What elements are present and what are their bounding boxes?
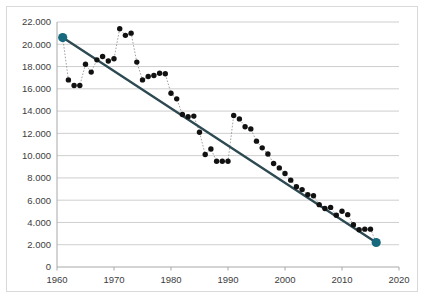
data-point (134, 59, 139, 64)
data-point (299, 187, 304, 192)
data-point (339, 209, 344, 214)
y-tick-label-12000: 12.000 (22, 128, 51, 139)
data-point (271, 161, 276, 166)
trend-endpoint-marker (372, 238, 381, 247)
y-tick-label-2000: 2.000 (27, 239, 51, 250)
data-point (168, 91, 173, 96)
y-tick-label-10000: 10.000 (22, 150, 51, 161)
trend-endpoint-marker (58, 33, 67, 42)
chart-figure: 02.0004.0006.0008.00010.00012.00014.0001… (0, 0, 425, 300)
data-point (140, 77, 145, 82)
y-tick-label-16000: 16.000 (22, 83, 51, 94)
data-point (368, 226, 373, 231)
chart-plot-area: 02.0004.0006.0008.00010.00012.00014.0001… (0, 0, 425, 300)
y-tick-label-18000: 18.000 (22, 61, 51, 72)
data-point (294, 184, 299, 189)
data-point (265, 151, 270, 156)
data-point (254, 138, 259, 143)
data-point (174, 96, 179, 101)
gridlines-group (57, 22, 399, 245)
data-point (231, 113, 236, 118)
x-tick-label-1970: 1970 (103, 274, 124, 285)
y-tick-label-14000: 14.000 (22, 105, 51, 116)
x-tick-label-2000: 2000 (274, 274, 295, 285)
data-point (89, 69, 94, 74)
data-point (242, 124, 247, 129)
data-point (351, 222, 356, 227)
y-tick-label-8000: 8.000 (27, 172, 51, 183)
y-tick-label-6000: 6.000 (27, 195, 51, 206)
data-point (180, 112, 185, 117)
data-point (197, 130, 202, 135)
data-point (94, 57, 99, 62)
data-point (123, 33, 128, 38)
data-point (128, 30, 133, 35)
data-point (345, 212, 350, 217)
data-point (185, 114, 190, 119)
data-point (237, 116, 242, 121)
x-tick-label-1990: 1990 (217, 274, 238, 285)
data-point (220, 159, 225, 164)
data-point (66, 77, 71, 82)
data-point (106, 58, 111, 63)
data-point (71, 83, 76, 88)
data-point (151, 73, 156, 78)
data-point (317, 202, 322, 207)
data-point (356, 227, 361, 232)
data-point (248, 126, 253, 131)
data-point (282, 171, 287, 176)
y-axis-tick-labels: 02.0004.0006.0008.00010.00012.00014.0001… (22, 16, 51, 272)
data-point (117, 26, 122, 31)
x-axis-tick-labels: 1960197019801990200020102020 (46, 274, 409, 285)
data-point (311, 193, 316, 198)
data-point (260, 145, 265, 150)
data-point (77, 83, 82, 88)
data-point (305, 192, 310, 197)
data-point (322, 206, 327, 211)
data-point (362, 226, 367, 231)
data-point (334, 213, 339, 218)
trend-line-group (63, 38, 377, 243)
x-tickmarks-group (57, 267, 399, 271)
data-point (203, 152, 208, 157)
x-tick-label-2010: 2010 (331, 274, 352, 285)
y-tick-label-20000: 20.000 (22, 39, 51, 50)
data-point (83, 62, 88, 67)
data-point (214, 159, 219, 164)
data-point (208, 146, 213, 151)
data-point (100, 54, 105, 59)
x-tick-label-1980: 1980 (160, 274, 181, 285)
data-point (225, 159, 230, 164)
y-tick-label-0: 0 (46, 261, 51, 272)
data-point (163, 71, 168, 76)
data-point (146, 74, 151, 79)
x-tick-label-2020: 2020 (388, 274, 409, 285)
data-point (191, 113, 196, 118)
data-point (288, 177, 293, 182)
y-tick-label-4000: 4.000 (27, 217, 51, 228)
data-point (157, 71, 162, 76)
y-tick-label-22000: 22.000 (22, 16, 51, 27)
data-point (111, 56, 116, 61)
trend-line (63, 38, 377, 243)
x-tick-label-1960: 1960 (46, 274, 67, 285)
data-point (328, 205, 333, 210)
scatter-chart-svg: 02.0004.0006.0008.00010.00012.00014.0001… (0, 0, 425, 300)
data-point (277, 165, 282, 170)
